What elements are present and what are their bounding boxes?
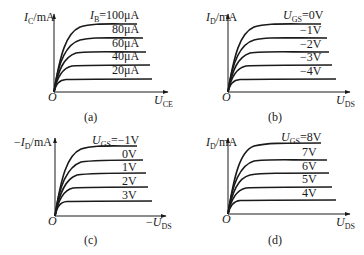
panel-a: IC/mA O UCE IB=100μA 80μA 60μA 40μA 20μA… — [23, 8, 173, 124]
origin-label: O — [48, 90, 57, 104]
panel-b: ID/mA O UDS UGS=0V −1V −2V −3V −4V (b) — [205, 8, 355, 124]
curve-label-4: 2V — [122, 174, 137, 188]
curve-label-3: 1V — [122, 160, 137, 174]
panel-caption: (d) — [268, 233, 282, 247]
y-axis-label: ID/mA — [205, 10, 237, 26]
curve-label-3: −2V — [300, 37, 322, 51]
curve-label-5: 3V — [122, 188, 137, 202]
curve-label-5: −4V — [300, 64, 322, 78]
panel-d: ID/mA O UDS UGS=8V 7V 6V 5V 4V (d) — [205, 130, 355, 247]
curve-label-2: 7V — [302, 145, 317, 159]
curve-5 — [228, 79, 336, 92]
origin-label: O — [222, 90, 231, 104]
panel-caption: (b) — [268, 110, 282, 124]
curve-label-4: 5V — [302, 172, 317, 186]
y-axis-label: ID/mA — [205, 135, 237, 151]
curve-label-2: 0V — [122, 147, 137, 161]
curve-label-5: 4V — [302, 186, 317, 200]
curve-label-4: 40μA — [112, 49, 139, 63]
curve-label-2: 80μA — [112, 22, 139, 36]
x-axis-label: UCE — [154, 93, 173, 109]
curve-label-2: −1V — [300, 23, 322, 37]
curve-5 — [55, 201, 152, 216]
curve-5 — [54, 79, 152, 92]
x-axis-label: −UDS — [146, 215, 172, 231]
origin-label: O — [222, 212, 231, 226]
curve-label-1: UGS=0V — [283, 8, 324, 24]
panel-caption: (a) — [84, 110, 97, 124]
y-axis-label: −ID/mA — [14, 135, 52, 151]
curve-label-4: −3V — [300, 50, 322, 64]
x-axis-label: UDS — [336, 215, 355, 231]
curve-label-3: 6V — [302, 159, 317, 173]
curve-5 — [228, 200, 336, 214]
curve-label-3: 60μA — [112, 36, 139, 50]
output-characteristics-figure: IC/mA O UCE IB=100μA 80μA 60μA 40μA 20μA… — [0, 0, 364, 255]
x-axis-label: UDS — [336, 93, 355, 109]
y-axis-label: IC/mA — [23, 10, 55, 26]
panel-c: −ID/mA O −UDS UGS=−1V 0V 1V 2V 3V (c) — [14, 133, 172, 247]
curve-label-1: UGS=8V — [281, 130, 322, 146]
curve-label-5: 20μA — [112, 63, 139, 77]
panel-caption: (c) — [84, 233, 97, 247]
